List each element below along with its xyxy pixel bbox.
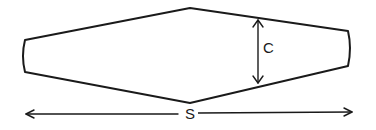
dimension-s-label: S (182, 106, 198, 121)
dimension-c-arrow (253, 20, 263, 83)
shape-outline (23, 8, 350, 103)
dimension-c-label: C (263, 40, 274, 55)
